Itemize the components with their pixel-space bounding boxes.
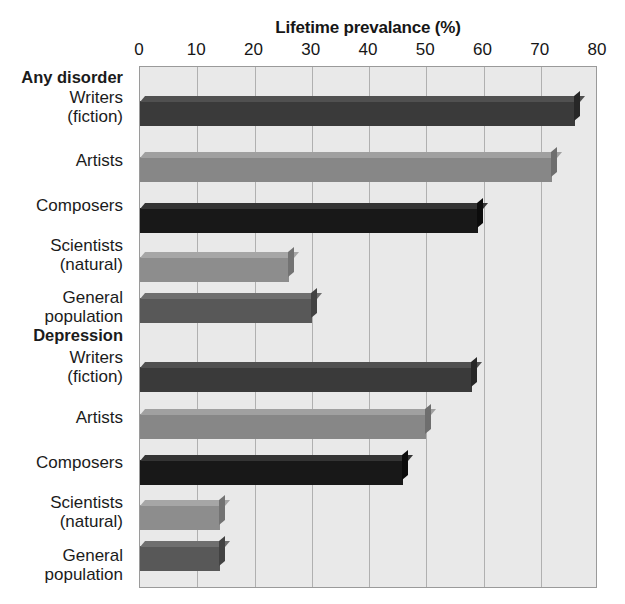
gridline-50 bbox=[426, 67, 427, 587]
category-label: Writers (fiction) bbox=[0, 88, 133, 126]
bar-side-face bbox=[288, 247, 294, 277]
bar-face bbox=[140, 257, 289, 282]
bar bbox=[140, 152, 557, 182]
category-label: Artists bbox=[0, 151, 133, 170]
bar bbox=[140, 541, 225, 571]
gridline-30 bbox=[312, 67, 313, 587]
bar-face bbox=[140, 460, 403, 485]
category-label: Artists bbox=[0, 408, 133, 427]
bar bbox=[140, 409, 431, 439]
bar-top-face bbox=[140, 455, 413, 461]
x-tick-label-0: 0 bbox=[134, 40, 143, 60]
x-tick-label-70: 70 bbox=[530, 40, 549, 60]
bar-side-face bbox=[219, 536, 225, 566]
bar-top-face bbox=[140, 409, 436, 415]
bar-top-face bbox=[140, 500, 230, 506]
bar-side-face bbox=[551, 147, 557, 177]
bar-face bbox=[140, 208, 478, 233]
bar-side-face bbox=[477, 198, 483, 228]
bar bbox=[140, 252, 294, 282]
bar-face bbox=[140, 414, 426, 439]
bar-top-face bbox=[140, 362, 482, 368]
gridline-60 bbox=[484, 67, 485, 587]
bar bbox=[140, 362, 477, 392]
bar-top-face bbox=[140, 293, 322, 299]
bar-chart: Lifetime prevalance (%) 0102030405060708… bbox=[0, 0, 625, 604]
bar-top-face bbox=[140, 541, 230, 547]
x-tick-label-10: 10 bbox=[187, 40, 206, 60]
bar bbox=[140, 500, 225, 530]
bar-top-face bbox=[140, 96, 585, 102]
x-tick-label-60: 60 bbox=[473, 40, 492, 60]
x-tick-label-40: 40 bbox=[359, 40, 378, 60]
bar bbox=[140, 293, 317, 323]
category-label: Writers (fiction) bbox=[0, 348, 133, 386]
bar-side-face bbox=[219, 495, 225, 525]
x-tick-label-30: 30 bbox=[301, 40, 320, 60]
bar-side-face bbox=[425, 404, 431, 434]
x-tick-label-80: 80 bbox=[588, 40, 607, 60]
category-label: General population bbox=[0, 546, 133, 584]
bar-top-face bbox=[140, 203, 488, 209]
bar-face bbox=[140, 546, 220, 571]
category-label: Composers bbox=[0, 196, 133, 215]
category-label: Scientists (natural) bbox=[0, 493, 133, 531]
bar bbox=[140, 455, 408, 485]
category-label: Composers bbox=[0, 453, 133, 472]
x-axis-tick-labels: 01020304050607080 bbox=[0, 40, 625, 66]
bar-top-face bbox=[140, 152, 562, 158]
plot-area bbox=[139, 66, 597, 588]
bar-side-face bbox=[311, 288, 317, 318]
bar-side-face bbox=[471, 357, 477, 387]
gridline-20 bbox=[255, 67, 256, 587]
category-label-column: Any disorderDepressionWriters (fiction)A… bbox=[0, 66, 133, 588]
gridline-70 bbox=[541, 67, 542, 587]
category-label: Scientists (natural) bbox=[0, 236, 133, 274]
bar-face bbox=[140, 101, 575, 126]
bar-top-face bbox=[140, 252, 299, 258]
bar-side-face bbox=[402, 450, 408, 480]
group-heading-1: Any disorder bbox=[0, 68, 133, 87]
x-tick-label-20: 20 bbox=[244, 40, 263, 60]
bar-face bbox=[140, 298, 312, 323]
bar-face bbox=[140, 157, 552, 182]
group-heading-2: Depression bbox=[0, 326, 133, 345]
x-tick-label-50: 50 bbox=[416, 40, 435, 60]
bar-side-face bbox=[574, 91, 580, 121]
bar-face bbox=[140, 367, 472, 392]
bar-face bbox=[140, 505, 220, 530]
category-label: General population bbox=[0, 288, 133, 326]
bar bbox=[140, 96, 580, 126]
gridline-40 bbox=[369, 67, 370, 587]
chart-axis-title: Lifetime prevalance (%) bbox=[139, 18, 597, 38]
bar bbox=[140, 203, 483, 233]
